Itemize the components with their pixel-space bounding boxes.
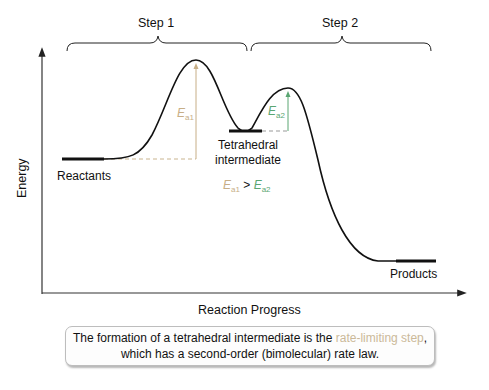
ea2-label: Ea2 <box>268 104 285 120</box>
intermediate-label-line1: Tetrahedral <box>215 138 281 153</box>
comparison-operator: > <box>243 178 250 192</box>
step1-label: Step 1 <box>138 16 174 30</box>
ea-comparison: Ea1 > Ea2 <box>223 178 271 194</box>
intermediate-label: Tetrahedral intermediate <box>215 138 281 168</box>
step2-label: Step 2 <box>322 16 358 30</box>
ea1-symbol: E <box>177 106 185 120</box>
ea1-subscript: a1 <box>185 113 194 122</box>
x-axis-label: Reaction Progress <box>198 303 301 317</box>
step1-brace <box>67 36 247 51</box>
intermediate-label-line2: intermediate <box>215 153 281 168</box>
cmp-ea1-subscript: a1 <box>231 185 240 194</box>
ea2-symbol: E <box>268 104 276 118</box>
cmp-ea2-symbol: E <box>254 178 262 192</box>
cmp-ea1-symbol: E <box>223 178 231 192</box>
step2-brace <box>251 36 431 51</box>
products-label: Products <box>390 267 437 281</box>
ea2-subscript: a2 <box>276 111 285 120</box>
cmp-ea2-subscript: a2 <box>262 185 271 194</box>
reactants-label: Reactants <box>57 169 111 183</box>
rate-limiting-callout: The formation of a tetrahedral intermedi… <box>65 326 435 366</box>
callout-highlight: rate-limiting step <box>336 331 424 345</box>
ea1-label: Ea1 <box>177 106 194 122</box>
y-axis-label: Energy <box>15 158 35 198</box>
callout-text-before: The formation of a tetrahedral intermedi… <box>73 331 336 345</box>
